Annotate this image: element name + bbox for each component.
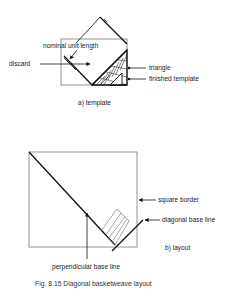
label-nominal-unit-length: nominal unit length	[43, 42, 99, 50]
figure-caption: Fig. 8.15 Diagonal basketweave layout	[35, 280, 152, 288]
label-perpendicular-base-line: perpendicular base line	[52, 263, 121, 271]
sublabel-layout: b) layout	[165, 244, 190, 252]
label-finished-template: finished template	[149, 75, 199, 83]
label-discard: discard	[9, 60, 31, 67]
finished-template-pointer-dot	[128, 78, 130, 80]
label-triangle: triangle	[149, 64, 171, 72]
square-border-rect	[29, 152, 137, 247]
triangle-shape	[110, 73, 122, 85]
template-top-left-edge	[91, 17, 100, 27]
template-diagram: nominal unit length discard triangle fin…	[9, 17, 199, 107]
diagram-canvas: nominal unit length discard triangle fin…	[0, 0, 243, 299]
layout-diagram: square border diagonal base line b) layo…	[29, 152, 215, 271]
diagonal-base-line	[112, 220, 143, 251]
template-left-edge	[76, 27, 91, 43]
sublabel-template: a) template	[78, 99, 111, 107]
label-square-border: square border	[158, 196, 200, 204]
triangle-pointer-dot	[128, 67, 130, 69]
nominal-unit-length-pointer	[70, 50, 77, 59]
label-diagonal-base-line: diagonal base line	[162, 216, 215, 224]
perpendicular-base-line	[29, 152, 115, 245]
template-top-right-edge	[100, 17, 127, 44]
unit-grid	[101, 209, 129, 245]
